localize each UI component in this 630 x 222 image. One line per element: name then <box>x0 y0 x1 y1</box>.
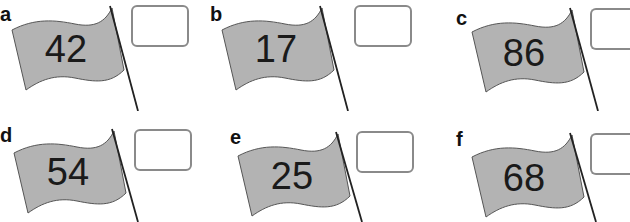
item-label: d <box>0 125 12 145</box>
answer-box[interactable] <box>354 5 412 47</box>
exercise-b: b 17 <box>210 0 420 111</box>
exercise-a: a 42 <box>0 0 210 111</box>
answer-box[interactable] <box>134 129 192 171</box>
flag-number: 17 <box>236 30 316 68</box>
flag-number: 68 <box>484 159 564 197</box>
answer-box[interactable] <box>590 133 630 175</box>
answer-box[interactable] <box>590 8 630 50</box>
flag-number: 54 <box>28 153 108 191</box>
item-label: b <box>210 4 222 24</box>
exercise-e: e 25 <box>210 111 420 222</box>
exercise-d: d 54 <box>0 111 210 222</box>
flag-number: 86 <box>484 34 564 72</box>
item-label: f <box>456 129 463 149</box>
answer-box[interactable] <box>356 131 414 173</box>
item-label: a <box>0 4 11 24</box>
flag-number: 42 <box>26 30 106 68</box>
item-label: e <box>230 127 241 147</box>
item-label: c <box>456 8 467 28</box>
exercise-f: f 68 <box>420 111 630 222</box>
answer-box[interactable] <box>131 5 189 47</box>
exercise-c: c 86 <box>420 0 630 111</box>
flag-number: 25 <box>252 157 332 195</box>
